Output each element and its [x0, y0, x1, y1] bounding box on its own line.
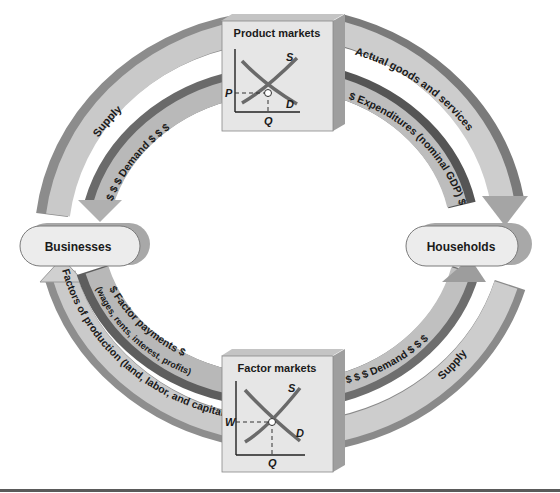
- factor-demand-label: D: [296, 427, 304, 439]
- product-markets-title: Product markets: [234, 27, 321, 39]
- arrowhead-icon: [482, 196, 528, 226]
- factor-markets-title: Factor markets: [238, 362, 317, 374]
- factor-quantity-label: Q: [268, 457, 277, 469]
- arrowhead-icon: [78, 200, 122, 222]
- bottom-rule: [0, 489, 560, 492]
- node-households: Households: [406, 223, 532, 266]
- node-businesses: Businesses: [20, 223, 150, 266]
- product-price-label: P: [225, 87, 233, 99]
- equilibrium-point: [269, 419, 276, 426]
- flow-supply-factor: [340, 285, 510, 432]
- businesses-label: Businesses: [45, 240, 112, 254]
- product-quantity-label: Q: [264, 115, 273, 127]
- product-markets-box: Product markets S D P Q: [221, 14, 345, 131]
- households-label: Households: [427, 240, 496, 254]
- factor-supply-label: S: [288, 382, 296, 394]
- factor-markets-box: Factor markets S D W Q: [221, 349, 345, 472]
- equilibrium-point: [265, 90, 272, 97]
- factor-wage-label: W: [225, 416, 237, 428]
- circular-flow-diagram: Supply Actual goods and services $ $ $ D…: [0, 0, 560, 493]
- product-demand-label: D: [286, 98, 294, 110]
- product-supply-label: S: [286, 51, 294, 63]
